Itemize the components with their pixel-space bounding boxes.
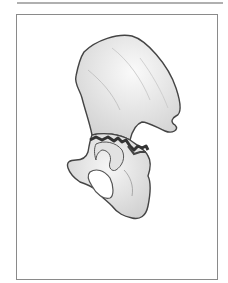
ilium-wing xyxy=(76,35,181,140)
hip-bone-illustration xyxy=(0,0,228,283)
